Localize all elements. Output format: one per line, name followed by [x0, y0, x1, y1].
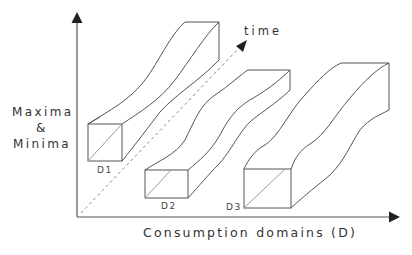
domain-label-d1: D1 [97, 165, 113, 175]
domain-label-d2: D2 [161, 201, 177, 211]
diagram-canvas: Maxima & Minima Consumption domains (D) … [0, 0, 412, 255]
y-axis-label-line2: & [12, 120, 72, 136]
domain-tube-d1 [88, 22, 219, 161]
y-axis-label-line1: Maxima [12, 104, 72, 120]
time-arrowhead-icon [236, 40, 247, 52]
domain-tube-d3 [244, 63, 389, 208]
d3-front-face [244, 169, 291, 208]
y-axis-label-line3: Minima [12, 136, 72, 152]
time-axis [81, 40, 247, 213]
x-axis-arrowhead-icon [389, 212, 400, 223]
time-axis-label: time [244, 24, 282, 38]
x-axis [77, 212, 400, 223]
x-axis-label: Consumption domains (D) [143, 225, 357, 240]
y-axis-arrowhead-icon [72, 12, 83, 23]
y-axis-label: Maxima & Minima [12, 104, 72, 152]
domain-label-d3: D3 [226, 202, 242, 212]
